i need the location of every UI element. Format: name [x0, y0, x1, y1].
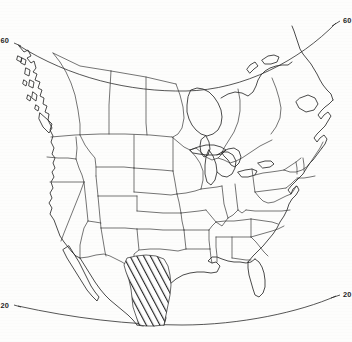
border-id-mt: [80, 135, 96, 176]
border-az-nm: [101, 228, 106, 256]
parallel-20-label-left: 20: [0, 301, 9, 310]
parallel-20-tick-right: [331, 295, 340, 298]
parallel-20-tick-left: [14, 305, 21, 307]
border-in-oh: [235, 184, 238, 210]
border-pa-ny: [255, 170, 284, 175]
border-wa-id: [76, 137, 77, 159]
border-va-nc: [246, 210, 290, 211]
border-ky-tn: [216, 219, 251, 222]
border-ca-az: [80, 221, 88, 258]
parallel-20-line: [18, 296, 336, 325]
border-sd-ne: [134, 192, 177, 195]
border-il-mo-ky: [206, 210, 228, 226]
parallel-60-tick-left: [14, 43, 21, 46]
border-mn-ia: [177, 189, 201, 194]
border-mt-wy: [96, 167, 134, 168]
border-pa-md: [255, 188, 286, 192]
border-ga-fl: [232, 258, 251, 260]
parallel-60-line: [18, 23, 336, 91]
lake-ontario: [258, 161, 274, 168]
island-8: [35, 105, 39, 111]
border-mn-wi: [190, 150, 203, 189]
border-ne-ia: [177, 194, 181, 213]
border-sc-ga: [251, 237, 268, 256]
baja-california: [63, 246, 99, 301]
map-canvas: 60 60 20 20: [0, 0, 352, 342]
hudson-bay: [187, 88, 222, 136]
border-ia-mo: [181, 210, 206, 213]
florida-peninsula: [248, 259, 265, 297]
parallel-20-label-right: 20: [343, 290, 352, 299]
border-ca-nv: [61, 182, 84, 241]
border-tn-nc-line: [251, 219, 278, 224]
border-in-ky: [228, 210, 238, 218]
arctic-fringe-2: [262, 55, 279, 64]
island-7: [17, 56, 22, 62]
border-alberta-saskatchewan: [109, 71, 111, 134]
border-oh-ky: [238, 210, 246, 213]
atlantic-coast: [248, 148, 322, 262]
border-ks-mo: [181, 213, 184, 230]
border-us-canada-49: [51, 134, 172, 137]
border-canada-north-cut: [53, 53, 111, 71]
gulf-coast: [163, 257, 255, 325]
border-ms-al: [216, 237, 217, 262]
border-il-in: [222, 186, 228, 218]
island-6: [27, 95, 31, 101]
border-quebec-maritimes: [271, 78, 281, 134]
border-oh-pa: [252, 169, 255, 192]
hatched-region: [124, 255, 171, 326]
border-co-nm: [101, 228, 137, 229]
island-4: [23, 80, 27, 86]
border-saskatchewan-manitoba: [146, 77, 147, 135]
newfoundland: [296, 95, 318, 112]
border-ok-tx: [139, 249, 186, 251]
border-ne-ks: [137, 211, 181, 213]
border-ok-ar: [184, 230, 186, 249]
lake-superior: [190, 145, 226, 155]
island-5: [32, 92, 37, 101]
border-wi-il: [201, 186, 222, 189]
coastline-pacific-northwest: [19, 46, 80, 258]
coastline-layer: [17, 26, 333, 326]
border-ar-ms-vertical: [209, 230, 210, 249]
border-la-ms-vertical: [210, 249, 212, 263]
island-2: [25, 68, 30, 76]
border-wa-or: [47, 157, 76, 159]
border-ar-ms-ky: [209, 222, 216, 230]
map-figure: 60 60 20 20: [0, 0, 352, 342]
border-id-ut: [96, 176, 98, 196]
border-canada-north-cut-2: [111, 71, 176, 84]
border-wv-va: [255, 192, 291, 203]
border-us-canada-east: [172, 137, 272, 163]
parallel-60-label-right: 60: [343, 16, 352, 25]
lake-erie: [238, 169, 257, 177]
parallel-60-label-left: 60: [0, 36, 9, 45]
border-ks-ok: [137, 229, 184, 230]
border-nv-ut: [84, 182, 88, 221]
new-england-maritimes-coast: [314, 100, 333, 148]
border-ut-az: [88, 221, 101, 223]
island-3: [29, 80, 34, 88]
arctic-fringe: [247, 62, 258, 73]
border-ny-ne: [284, 158, 301, 170]
border-nc-sc: [251, 226, 284, 237]
hatched-region-polygon: [124, 255, 171, 326]
parallel-20-group: 20 20: [0, 290, 351, 325]
parallel-60-tick-right: [332, 21, 340, 26]
border-me-canada: [308, 142, 323, 166]
border-sd-mn-ia: [173, 171, 177, 194]
border-or-id: [76, 159, 84, 182]
national-border-layer: [51, 53, 281, 290]
border-md-de: [291, 186, 296, 194]
border-nd-sd: [134, 168, 173, 171]
state-boundary-layer: [47, 135, 323, 270]
labrador-coast: [292, 26, 333, 100]
border-manitoba-ontario: [173, 84, 184, 137]
